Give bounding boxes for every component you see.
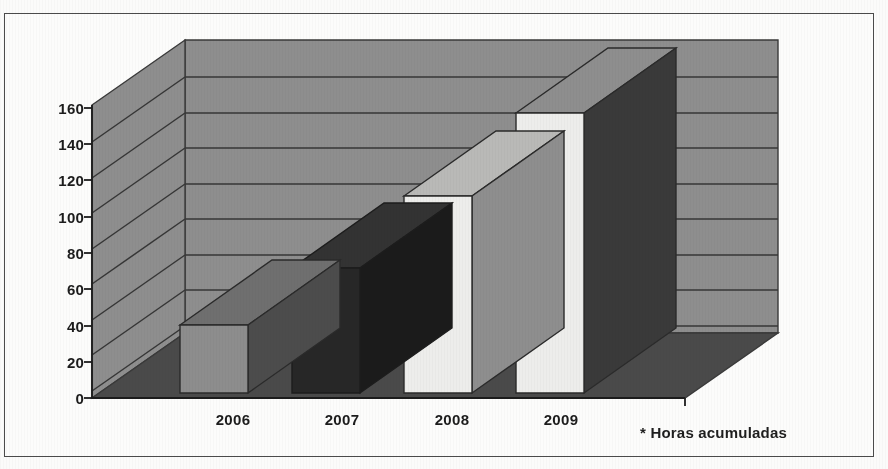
xtick-label-2007: 2007	[302, 411, 382, 428]
xtick-label-2008: 2008	[412, 411, 492, 428]
chart-footnote: * Horas acumuladas	[640, 424, 787, 441]
chart-page: 160 140 120 100 80 60 40 20 0 2006 2007 …	[0, 0, 888, 469]
xtick-label-2009: 2009	[521, 411, 601, 428]
category-axis-labels: 2006 2007 2008 2009	[0, 0, 888, 469]
xtick-label-2006: 2006	[193, 411, 273, 428]
